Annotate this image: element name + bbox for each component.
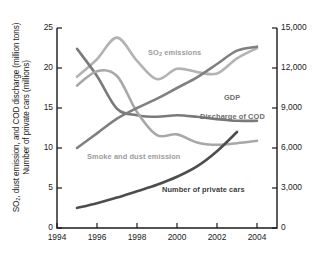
x-tick-5: 2004 (237, 232, 277, 242)
y-tick-left-3: 15 (19, 102, 53, 112)
y-axis-right-ticks (272, 28, 277, 228)
y-tick-right-2: 6,000 (281, 142, 321, 152)
series-label-so2: SO2 emissions (148, 48, 201, 57)
series-label-cod: Discharge of COD (200, 112, 265, 121)
y-tick-right-0: 0 (281, 222, 321, 232)
series-line-smoke-and-dust-emission (77, 70, 257, 145)
y-tick-left-4: 20 (19, 62, 53, 72)
y-tick-left-0: 0 (19, 222, 53, 232)
y-tick-right-5: 15,000 (281, 22, 321, 32)
y-tick-right-4: 12,000 (281, 62, 321, 72)
series-label-smoke: Smoke and dust emission (87, 152, 180, 161)
plot-area (0, 0, 335, 260)
x-tick-2: 1998 (117, 232, 157, 242)
x-tick-1: 1996 (77, 232, 117, 242)
chart-figure: SO₂, dust emission, and COD discharge (m… (0, 0, 335, 260)
axis-spines (57, 28, 277, 228)
y-axis-left-ticks (57, 28, 62, 228)
series-label-so2-text: SO (148, 48, 159, 57)
y-tick-left-2: 10 (19, 142, 53, 152)
x-tick-4: 2002 (197, 232, 237, 242)
series-label-so2-tail: emissions (162, 48, 201, 57)
series-lines (77, 38, 257, 208)
series-label-gdp: GDP (224, 93, 240, 102)
x-tick-0: 1994 (37, 232, 77, 242)
series-line-discharge-of-cod (77, 49, 257, 121)
y-tick-right-1: 3,000 (281, 182, 321, 192)
series-label-cars: Number of private cars (162, 185, 245, 194)
y-tick-left-1: 5 (19, 182, 53, 192)
series-line-so2-emissions (77, 38, 257, 80)
y-tick-left-5: 25 (19, 22, 53, 32)
x-tick-3: 2000 (157, 232, 197, 242)
y-tick-right-3: 9,000 (281, 102, 321, 112)
x-axis-ticks (57, 223, 257, 228)
